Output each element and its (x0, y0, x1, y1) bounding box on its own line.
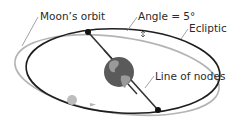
moon-icon (67, 95, 77, 105)
label-angle: Angle = 5° (138, 10, 195, 22)
label-line-of-nodes: Line of nodes (155, 70, 225, 82)
angle-marker (141, 31, 145, 37)
ascending-node-dot (85, 29, 91, 35)
line-of-nodes-leader (145, 76, 154, 88)
earth-icon (104, 57, 134, 88)
orbit-direction-arrow (90, 103, 96, 107)
line-of-nodes-upper (104, 50, 112, 59)
label-moons-orbit: Moon’s orbit (40, 10, 105, 22)
moon-orbit-diagram: Moon’s orbit Angle = 5° Ecliptic Line of… (0, 0, 237, 121)
descending-node-dot (155, 107, 161, 113)
ecliptic-leader (181, 29, 188, 39)
label-ecliptic: Ecliptic (189, 22, 227, 34)
